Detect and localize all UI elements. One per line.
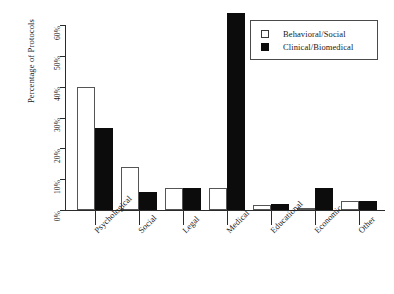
- bar: [183, 188, 201, 210]
- bar: [209, 188, 227, 210]
- bar-group: [121, 25, 157, 210]
- bar: [359, 201, 377, 210]
- y-axis-tick: 50%: [60, 56, 65, 57]
- bar: [139, 192, 157, 211]
- y-axis-tick-label: 40%: [53, 87, 62, 101]
- legend-item-label: Behavioral/Social: [283, 29, 346, 39]
- light-square-icon: [261, 30, 269, 38]
- bar: [165, 188, 183, 210]
- bar: [95, 128, 113, 210]
- y-axis-tick-label: 0%: [53, 211, 62, 221]
- bar: [77, 87, 95, 210]
- dark-square-icon: [261, 43, 269, 51]
- y-axis-tick: 30%: [60, 118, 65, 119]
- chart-legend: Behavioral/SocialClinical/Biomedical: [250, 20, 378, 60]
- bar-group: [165, 25, 201, 210]
- y-axis-tick: 0%: [60, 210, 65, 211]
- bar: [227, 13, 245, 210]
- y-axis-title: Percentage of Protocols: [26, 0, 36, 126]
- y-axis-tick-label: 30%: [53, 118, 62, 132]
- bar: [253, 205, 271, 210]
- x-axis-tick-label: Medical: [224, 208, 251, 235]
- y-axis-tick: 20%: [60, 148, 65, 149]
- bar-group: [77, 25, 113, 210]
- y-axis-tick: 40%: [60, 87, 65, 88]
- legend-item: Clinical/Biomedical: [261, 40, 369, 53]
- y-axis-tick-label: 50%: [53, 56, 62, 70]
- y-axis-tick-label: 60%: [53, 26, 62, 40]
- bar-chart: Percentage of Protocols 0%10%20%30%40%50…: [0, 0, 394, 294]
- y-axis-tick-label: 10%: [53, 180, 62, 194]
- bar-group: [209, 25, 245, 210]
- y-axis-tick: 60%: [60, 25, 65, 26]
- y-axis-line: [65, 25, 66, 210]
- legend-item: Behavioral/Social: [261, 27, 369, 40]
- bar: [315, 188, 333, 210]
- bar: [341, 201, 359, 210]
- y-axis-tick: 10%: [60, 179, 65, 180]
- y-axis-tick-label: 20%: [53, 149, 62, 163]
- legend-item-label: Clinical/Biomedical: [283, 42, 353, 52]
